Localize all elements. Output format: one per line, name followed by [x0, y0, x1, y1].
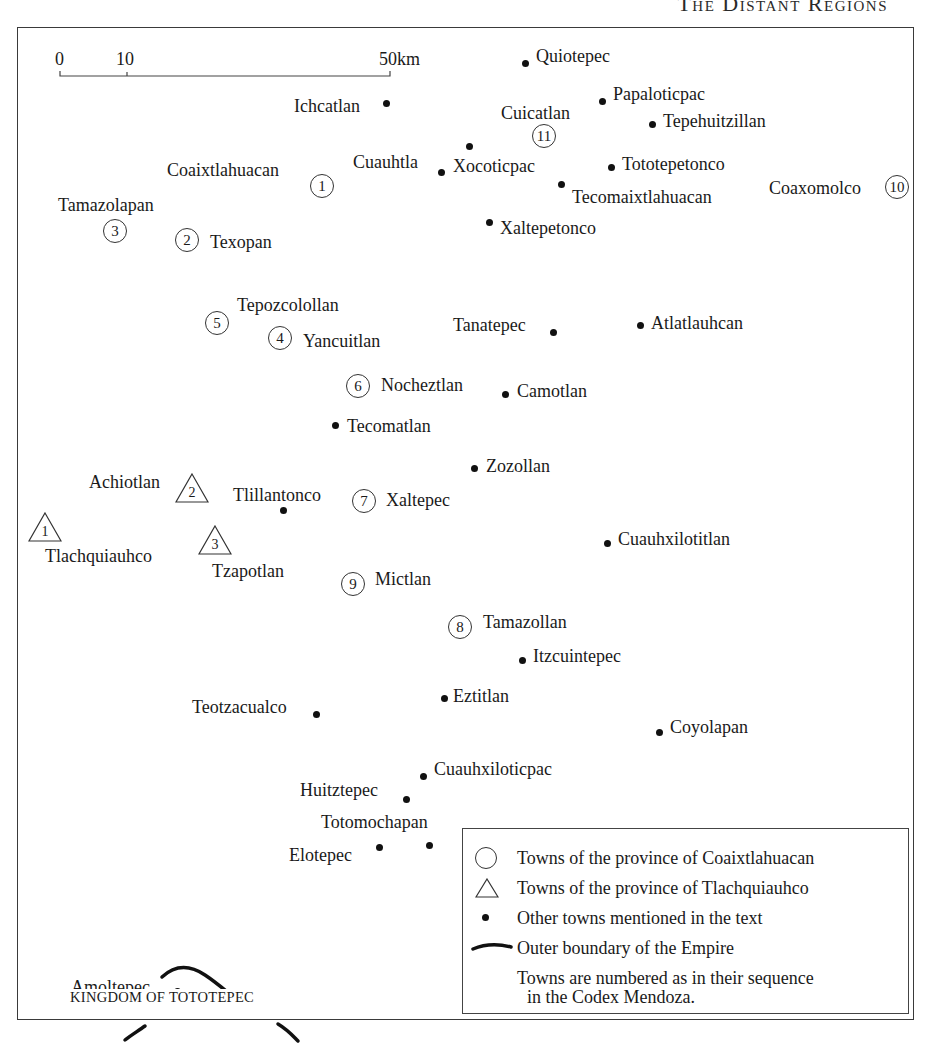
circle-marker: 8: [448, 615, 472, 639]
town-label[interactable]: Zozollan: [486, 457, 550, 475]
triangle-marker: 1: [28, 511, 62, 543]
circle-marker: 1: [310, 174, 334, 198]
dot-icon: [522, 60, 529, 67]
circle-marker: 2: [175, 228, 199, 252]
town-label[interactable]: Coyolapan: [670, 718, 748, 736]
dot-icon: [637, 322, 644, 329]
circle-marker: 6: [346, 374, 370, 398]
town-label[interactable]: Quiotepec: [536, 47, 610, 65]
town-label[interactable]: Xaltepetonco: [500, 219, 596, 237]
town-label[interactable]: Cuauhxilotitlan: [618, 530, 730, 548]
dot-icon: [558, 181, 565, 188]
town-label[interactable]: Xocoticpac: [453, 157, 535, 175]
town-label[interactable]: Tamazollan: [483, 613, 567, 631]
dot-icon: [420, 773, 427, 780]
town-label[interactable]: Atlatlauhcan: [651, 314, 743, 332]
town-label[interactable]: Tanatepec: [453, 316, 526, 334]
town-label[interactable]: Texopan: [210, 233, 272, 251]
town-label[interactable]: Tecomatlan: [347, 417, 431, 435]
scale-tick-50km: 50km: [379, 50, 420, 68]
circle-marker: 7: [352, 489, 376, 513]
circle-marker: 11: [532, 124, 556, 148]
town-label[interactable]: Teotzacualco: [192, 698, 287, 716]
town-label[interactable]: Coaxomolco: [769, 179, 861, 197]
dot-icon: [280, 507, 287, 514]
dot-icon: [604, 540, 611, 547]
dot-icon: [466, 143, 473, 150]
dot-icon: [486, 219, 493, 226]
dot-icon: [599, 98, 606, 105]
triangle-marker: 3: [198, 524, 232, 556]
circle-marker: 3: [103, 219, 127, 243]
town-label[interactable]: Tzapotlan: [212, 562, 284, 580]
town-label[interactable]: Tlillantonco: [233, 486, 321, 504]
dot-icon: [438, 169, 445, 176]
town-label[interactable]: Tototepetonco: [622, 155, 725, 173]
town-label[interactable]: Huitztepec: [300, 781, 378, 799]
circle-icon: [475, 847, 497, 869]
dot-icon: [332, 422, 339, 429]
triangle-marker: 2: [175, 472, 209, 504]
dot-icon: [550, 329, 557, 336]
dot-icon: [502, 391, 509, 398]
dot-icon: [426, 842, 433, 849]
dot-icon: [376, 844, 383, 851]
town-label[interactable]: Papaloticpac: [613, 85, 705, 103]
town-label[interactable]: Tepehuitzillan: [663, 112, 766, 130]
scale-tick-0: 0: [55, 50, 64, 68]
town-label[interactable]: Ichcatlan: [294, 97, 360, 115]
circle-marker: 4: [268, 326, 292, 350]
town-label[interactable]: Xaltepec: [386, 491, 450, 509]
dot-icon: [608, 164, 615, 171]
town-label[interactable]: Camotlan: [517, 382, 587, 400]
circle-marker: 5: [205, 311, 229, 335]
dot-icon: [482, 914, 489, 921]
town-label[interactable]: Cuauhxiloticpac: [434, 760, 552, 778]
dot-icon: [383, 100, 390, 107]
scale-tick-10: 10: [116, 50, 134, 68]
region-label: KINGDOM OF TOTOTEPEC: [68, 989, 256, 1006]
town-label[interactable]: Tepozcolollan: [237, 296, 339, 314]
dot-icon: [471, 465, 478, 472]
town-label[interactable]: Yancuitlan: [303, 332, 380, 350]
town-label[interactable]: Tamazolapan: [58, 196, 154, 214]
triangle-icon: [475, 878, 499, 898]
town-label[interactable]: Nocheztlan: [381, 376, 463, 394]
town-label[interactable]: Tlachquiauhco: [45, 547, 152, 565]
legend: Towns of the province of Coaixtlahuacan …: [462, 828, 909, 1014]
town-label[interactable]: Achiotlan: [89, 473, 160, 491]
circle-marker: 10: [885, 175, 909, 199]
town-label[interactable]: Cuauhtla: [353, 153, 418, 171]
dot-icon: [649, 121, 656, 128]
boundary-line-icon: [471, 941, 513, 953]
town-label[interactable]: Tecomaixtlahuacan: [572, 188, 712, 206]
dot-icon: [656, 729, 663, 736]
scale-bar-line: [60, 71, 390, 76]
dot-icon: [519, 657, 526, 664]
dot-icon: [403, 796, 410, 803]
town-label[interactable]: Cuicatlan: [501, 104, 570, 122]
town-label[interactable]: Elotepec: [289, 846, 352, 864]
town-label[interactable]: Mictlan: [375, 570, 431, 588]
circle-marker: 9: [341, 572, 365, 596]
town-label[interactable]: Totomochapan: [321, 813, 428, 831]
dot-icon: [313, 711, 320, 718]
town-label[interactable]: Eztitlan: [453, 687, 509, 705]
town-label[interactable]: Itzcuintepec: [533, 647, 621, 665]
dot-icon: [441, 695, 448, 702]
town-label[interactable]: Coaixtlahuacan: [167, 161, 279, 179]
